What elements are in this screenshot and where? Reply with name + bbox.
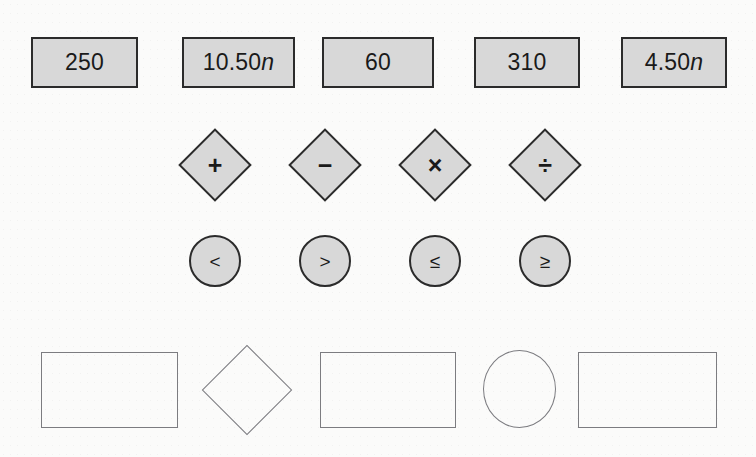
plus-icon: +	[208, 153, 223, 178]
operator-minus[interactable]: −	[299, 139, 351, 191]
operator-multiply[interactable]: ×	[409, 139, 461, 191]
divide-icon: ÷	[538, 153, 552, 178]
tile-10-50n[interactable]: 10.50n	[182, 37, 295, 88]
tile-250[interactable]: 250	[31, 37, 138, 88]
greater-than-or-equal-icon: ≥	[540, 252, 550, 271]
value-tile-variable: n	[261, 51, 274, 74]
operator-plus[interactable]: +	[189, 139, 241, 191]
tile-4-50n[interactable]: 4.50n	[621, 37, 727, 88]
comparator-greater-than[interactable]: >	[299, 235, 351, 287]
multiply-icon: ×	[428, 153, 443, 178]
comparator-less-than[interactable]: <	[189, 235, 241, 287]
greater-than-icon: >	[319, 252, 330, 271]
value-tile-label: 4.50	[645, 51, 691, 74]
drop-slot-4[interactable]	[483, 350, 556, 428]
tile-60[interactable]: 60	[322, 37, 434, 88]
comparator-greater-than-or-equal[interactable]: ≥	[519, 235, 571, 287]
value-tile-label: 310	[508, 51, 547, 74]
less-than-or-equal-icon: ≤	[430, 252, 440, 271]
operator-divide[interactable]: ÷	[519, 139, 571, 191]
comparator-less-than-or-equal[interactable]: ≤	[409, 235, 461, 287]
drop-slot-5[interactable]	[578, 352, 717, 428]
value-tile-label: 60	[365, 51, 391, 74]
drop-slot-1[interactable]	[41, 352, 178, 428]
slot-diamond-shape	[202, 345, 293, 436]
drop-slot-3[interactable]	[320, 352, 456, 428]
drop-slot-2[interactable]	[215, 358, 279, 422]
value-tile-label: 250	[65, 51, 104, 74]
minus-icon: −	[318, 153, 333, 178]
expression-builder-canvas: 25010.50n603104.50n+−×÷<>≤≥	[0, 0, 756, 457]
tile-310[interactable]: 310	[474, 37, 580, 88]
value-tile-label: 10.50	[203, 51, 262, 74]
value-tile-variable: n	[690, 51, 703, 74]
less-than-icon: <	[209, 252, 220, 271]
